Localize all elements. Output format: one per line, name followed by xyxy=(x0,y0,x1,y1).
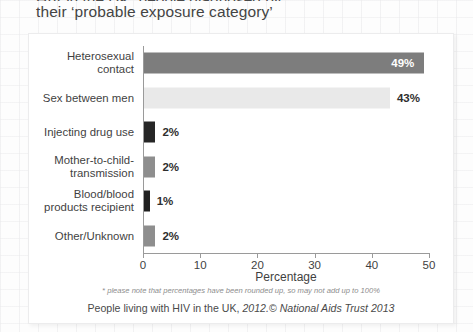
category-label: Blood/blood products recipient xyxy=(0,188,134,214)
x-axis-tick xyxy=(257,253,258,258)
bar-chart-plot: 01020304050 Heterosexual contact49%Sex b… xyxy=(143,46,429,253)
category-label: Other/Unknown xyxy=(0,229,134,242)
page-title-text: their ‘probable exposure category’ xyxy=(36,3,273,20)
bar[interactable] xyxy=(144,225,155,246)
bar-row: Injecting drug use2% xyxy=(143,115,429,150)
copyright-icon: © xyxy=(269,302,277,314)
bar[interactable] xyxy=(144,191,150,212)
x-axis-tick xyxy=(315,253,316,258)
headline-clipped-line: HIV in the UK, people diagnosed by xyxy=(36,0,436,1)
x-axis-tick xyxy=(143,253,144,258)
source-prefix: People living with HIV in the UK, xyxy=(88,302,243,314)
bar-row: Blood/blood products recipient1% xyxy=(143,184,429,219)
bar-value-label: 2% xyxy=(162,230,179,242)
bar-value-label: 1% xyxy=(157,195,174,207)
x-axis-tick xyxy=(200,253,201,258)
bar-row: Heterosexual contact49% xyxy=(143,46,429,81)
category-label: Heterosexual contact xyxy=(0,50,134,76)
headline-clipped-text: HIV in the UK, people diagnosed by xyxy=(36,0,282,1)
bar[interactable] xyxy=(144,156,155,177)
chart-source: People living with HIV in the UK, 2012.©… xyxy=(29,302,453,314)
bar-row: Sex between men43% xyxy=(143,81,429,116)
x-axis-tick xyxy=(429,253,430,258)
x-axis-tick xyxy=(372,253,373,258)
source-year: 2012. xyxy=(242,302,269,314)
bar-row: Mother-to-child- transmission2% xyxy=(143,150,429,185)
x-axis-line xyxy=(143,253,430,254)
bar-row: Other/Unknown2% xyxy=(143,219,429,254)
chart-footnote: * please note that percentages have been… xyxy=(29,286,453,295)
bar[interactable] xyxy=(144,122,155,143)
chart-card: 01020304050 Heterosexual contact49%Sex b… xyxy=(28,33,454,324)
bar-value-label: 43% xyxy=(397,92,420,104)
x-axis-title: Percentage xyxy=(143,270,429,284)
page-title: their ‘probable exposure category’ xyxy=(36,2,273,22)
bar[interactable] xyxy=(144,87,390,108)
bar-value-label: 2% xyxy=(162,161,179,173)
category-label: Injecting drug use xyxy=(0,126,134,139)
category-label: Sex between men xyxy=(0,91,134,104)
category-label: Mother-to-child- transmission xyxy=(0,154,134,180)
bar[interactable] xyxy=(144,53,424,74)
bar-value-label: 2% xyxy=(162,126,179,138)
source-organisation: National Aids Trust 2013 xyxy=(277,302,395,314)
page-background: HIV in the UK, people diagnosed by their… xyxy=(0,0,473,332)
bar-value-label: 49% xyxy=(391,57,414,69)
